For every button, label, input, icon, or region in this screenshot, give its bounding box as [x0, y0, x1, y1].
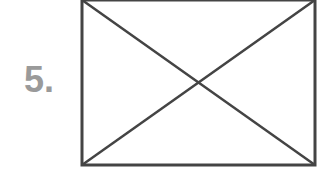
- crossed-rectangle-placeholder-icon: [0, 0, 331, 173]
